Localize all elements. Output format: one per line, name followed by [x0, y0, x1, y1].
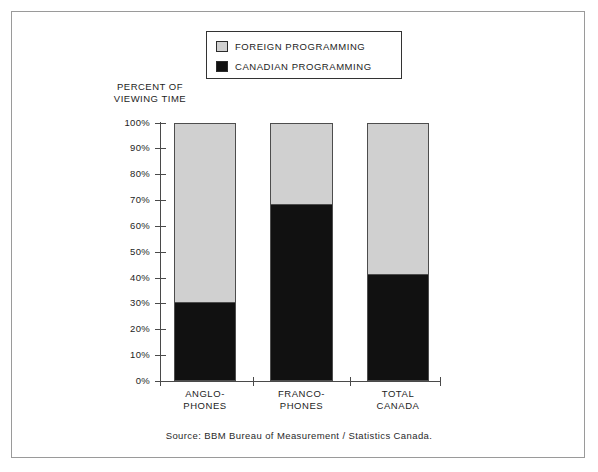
- chart-legend: FOREIGN PROGRAMMING CANADIAN PROGRAMMING: [206, 31, 402, 79]
- y-axis-title-line2: VIEWING TIME: [98, 93, 202, 105]
- legend-label-canadian: CANADIAN PROGRAMMING: [235, 61, 372, 72]
- legend-label-foreign: FOREIGN PROGRAMMING: [235, 41, 365, 52]
- foreign-swatch-icon: [216, 41, 228, 52]
- chart-page: FOREIGN PROGRAMMING CANADIAN PROGRAMMING…: [0, 0, 598, 472]
- legend-item-foreign: FOREIGN PROGRAMMING: [216, 39, 365, 53]
- y-axis-title: PERCENT OF VIEWING TIME: [98, 81, 202, 105]
- y-axis-title-line1: PERCENT OF: [98, 81, 202, 93]
- canadian-swatch-icon: [216, 61, 228, 72]
- source-note: Source: BBM Bureau of Measurement / Stat…: [0, 430, 598, 441]
- legend-item-canadian: CANADIAN PROGRAMMING: [216, 59, 372, 73]
